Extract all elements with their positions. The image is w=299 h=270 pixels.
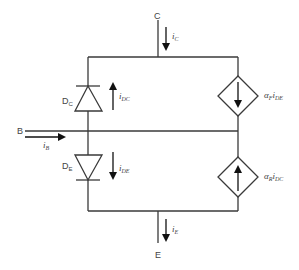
emitter-diode xyxy=(75,155,102,180)
ie-label: iE xyxy=(172,224,179,235)
idc-label: iDC xyxy=(119,91,131,102)
wires xyxy=(25,20,238,243)
collector-diode-label: DC xyxy=(62,96,74,107)
ib-label: iB xyxy=(43,140,50,151)
collector-label: C xyxy=(154,11,161,21)
forward-source-label: αFiDE xyxy=(264,90,283,101)
forward-dependent-source xyxy=(218,76,258,116)
collector-diode xyxy=(75,86,102,111)
ic-label: iC xyxy=(172,31,180,42)
reverse-dependent-source xyxy=(218,157,258,197)
emitter-label: E xyxy=(155,250,161,260)
ebers-moll-circuit: C B E iC iB iE iDC iDE DC DE αFiDE αRiDC xyxy=(0,0,299,270)
base-label: B xyxy=(17,126,23,136)
ide-label: iDE xyxy=(119,163,130,174)
emitter-diode-label: DE xyxy=(62,161,73,172)
reverse-source-label: αRiDC xyxy=(264,171,284,182)
